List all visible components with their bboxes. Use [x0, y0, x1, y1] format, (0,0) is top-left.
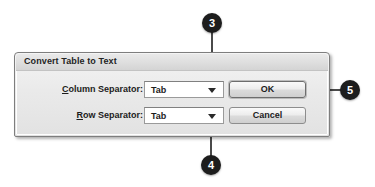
row-separator-label-rest: ow Separator: [83, 110, 143, 120]
convert-table-to-text-dialog: Convert Table to Text Column Separator: … [14, 52, 330, 137]
chevron-down-icon[interactable] [208, 88, 216, 93]
dialog-titlebar: Convert Table to Text [16, 54, 328, 71]
row-separator-row: Row Separator: Tab Cancel [15, 107, 329, 124]
cancel-button[interactable]: Cancel [229, 107, 306, 124]
callout-badge-5: 5 [340, 80, 360, 100]
row-separator-dropdown[interactable]: Tab [144, 107, 224, 124]
column-separator-label-rest: olumn Separator: [68, 84, 143, 94]
callout-badge-4: 4 [201, 155, 221, 175]
cancel-button-label: Cancel [253, 111, 283, 120]
ok-button-label: OK [261, 85, 275, 94]
column-separator-row: Column Separator: Tab OK [15, 81, 329, 98]
callout-badge-3: 3 [202, 13, 222, 33]
dialog-title: Convert Table to Text [24, 56, 117, 66]
ok-button[interactable]: OK [229, 81, 306, 98]
chevron-down-icon[interactable] [208, 114, 216, 119]
column-separator-label: Column Separator: [62, 84, 143, 94]
column-separator-value: Tab [151, 85, 166, 95]
row-separator-label: Row Separator: [76, 110, 143, 120]
row-separator-value: Tab [151, 111, 166, 121]
column-separator-dropdown[interactable]: Tab [144, 81, 224, 98]
